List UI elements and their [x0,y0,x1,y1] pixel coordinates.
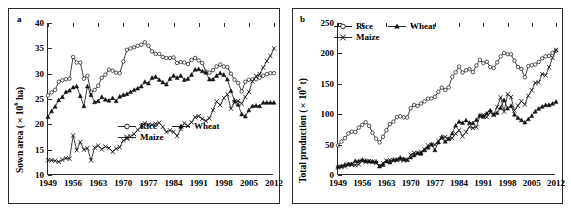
panel-b-legend-label-wheat: Wheat [410,21,436,32]
panel-a-legend: Rice Wheat Maize [117,121,220,143]
x-tick-label: 1998 [499,179,517,188]
y-tick-label: 35 [35,44,48,53]
x-tick-label: 1970 [114,179,132,188]
panel-a-plot-area: 1015202530354019491956196319701977198419… [47,23,273,175]
panel-b-legend-row-2: Maize [333,32,436,43]
y-tick-label: 20 [35,120,48,129]
panel-a-legend-entry-maize: Maize [117,132,163,143]
x-tick-label: 1949 [39,179,57,188]
panel-b-legend-entry-wheat: Wheat [387,21,436,32]
y-tick-mark [48,175,52,176]
x-tick-label: 2012 [265,179,283,188]
panel-b-letter: b [300,15,305,24]
x-tick-mark [148,23,149,27]
y-tick-mark [338,84,342,85]
series-wheat [336,98,558,168]
x-tick-label: 1963 [89,179,107,188]
x-tick-mark [532,23,533,27]
panel-a-legend-label-maize: Maize [140,132,163,143]
x-tick-label: 1991 [474,179,492,188]
cross-marker-icon [333,32,353,43]
x-tick-label: 1956 [353,179,371,188]
panel-b-y-axis-title: Total production (×106 t) [295,37,308,183]
panel-b-legend-label-maize: Maize [356,32,379,43]
panel-a-legend-label-wheat: Wheat [194,121,220,132]
y-tick-label: 50 [325,140,338,149]
panel-a-legend-label-rice: Rice [140,121,157,132]
filled-triangle-marker-icon [171,121,191,132]
x-tick-mark [199,23,200,27]
y-tick-mark [338,145,342,146]
panel-a-legend-row-2: Maize [117,132,220,143]
panel-b-legend-row-1: Rice Wheat [333,21,436,32]
x-tick-label: 1984 [165,179,183,188]
cross-marker-icon [117,132,137,143]
panel-b: b Total production (×106 t) 050100150200… [292,8,563,204]
y-tick-mark [338,114,342,115]
figure-container: a Sown area (×106 ha) 101520253035401949… [0,0,571,220]
x-tick-label: 1963 [377,179,395,188]
x-tick-label: 1991 [190,179,208,188]
x-tick-label: 1998 [215,179,233,188]
panel-b-legend-entry-maize: Maize [333,32,379,43]
panel-a-letter: a [17,15,22,24]
x-tick-label: 1956 [64,179,82,188]
panel-a-legend-entry-wheat: Wheat [171,121,220,132]
x-tick-label: 1949 [329,179,347,188]
x-tick-mark [123,23,124,27]
x-tick-label: 1977 [426,179,444,188]
x-tick-mark [274,23,275,27]
panel-b-y-axis-title-exponent: 6 [295,87,302,90]
x-tick-mark [459,23,460,27]
panel-a-y-axis-title-exponent: 6 [12,102,19,105]
panel-b-series-svg [338,23,556,175]
y-tick-mark [48,74,52,75]
y-tick-label: 150 [321,79,339,88]
x-tick-mark [483,23,484,27]
x-tick-mark [174,23,175,27]
x-tick-label: 2005 [240,179,258,188]
y-tick-mark [338,175,342,176]
x-tick-mark [249,23,250,27]
y-tick-mark [48,150,52,151]
panel-b-legend: Rice Wheat Maize [333,21,436,43]
panel-a-y-axis-title-tail: ha) [15,87,25,103]
panel-a-y-axis-title: Sown area (×106 ha) [12,43,25,173]
panel-b-y-axis-title-main: Total production (×10 [298,90,308,183]
panel-b-legend-label-rice: Rice [356,21,373,32]
y-tick-mark [48,48,52,49]
open-circle-marker-icon [333,21,353,32]
panel-a-series-svg [48,23,274,175]
series-rice [46,41,276,98]
x-tick-mark [48,23,49,27]
y-tick-label: 30 [35,69,48,78]
y-tick-mark [338,53,342,54]
x-tick-mark [556,23,557,27]
panel-a-legend-entry-rice: Rice [117,121,157,132]
panel-b-plot-area: 0501001502002501949195619631970197719841… [337,23,555,175]
x-tick-label: 1984 [450,179,468,188]
x-tick-label: 2012 [547,179,565,188]
x-tick-mark [508,23,509,27]
y-tick-label: 40 [35,19,48,28]
y-tick-label: 15 [35,145,48,154]
x-tick-mark [224,23,225,27]
x-tick-label: 2005 [523,179,541,188]
filled-triangle-marker-icon [387,21,407,32]
x-tick-mark [98,23,99,27]
panel-a-legend-row-1: Rice Wheat [117,121,220,132]
series-maize [336,48,558,170]
panel-a-y-axis-title-main: Sown area (×10 [15,106,25,173]
panel-a: a Sown area (×106 ha) 101520253035401949… [8,8,280,204]
y-tick-label: 25 [35,95,48,104]
open-circle-marker-icon [117,121,137,132]
panel-b-legend-entry-rice: Rice [333,21,373,32]
x-tick-label: 1977 [139,179,157,188]
x-tick-label: 1970 [402,179,420,188]
series-rice [336,49,558,147]
panel-b-y-axis-title-tail: t) [298,78,308,87]
y-tick-label: 100 [321,110,339,119]
y-tick-mark [48,124,52,125]
x-tick-mark [73,23,74,27]
y-tick-label: 200 [321,49,339,58]
